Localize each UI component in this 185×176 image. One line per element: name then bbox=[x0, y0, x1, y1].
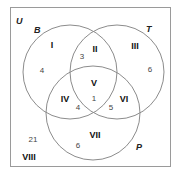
region-label-v: V bbox=[91, 79, 97, 88]
region-count-ii: 3 bbox=[80, 53, 84, 61]
venn-diagram: U B T P I 4 II 3 III 6 IV 4 V 1 VI 5 VII… bbox=[0, 0, 185, 176]
region-count-i: 4 bbox=[40, 67, 44, 75]
region-label-iii: III bbox=[131, 42, 139, 51]
set-label-t: T bbox=[146, 25, 152, 34]
region-count-v: 1 bbox=[92, 95, 96, 103]
universe-label: U bbox=[16, 17, 23, 26]
region-label-iv: IV bbox=[61, 95, 70, 104]
region-count-viii: 21 bbox=[29, 136, 38, 144]
region-count-iv: 4 bbox=[76, 104, 80, 112]
region-count-vii: 6 bbox=[76, 142, 80, 150]
set-label-b: B bbox=[34, 26, 41, 35]
region-label-vi: VI bbox=[120, 95, 129, 104]
region-count-iii: 6 bbox=[148, 66, 152, 74]
region-label-i: I bbox=[51, 41, 54, 50]
region-label-viii: VIII bbox=[22, 153, 36, 162]
region-label-vii: VII bbox=[89, 131, 100, 140]
set-label-p: P bbox=[136, 143, 142, 152]
region-count-vi: 5 bbox=[109, 104, 113, 112]
venn-circles bbox=[0, 0, 185, 176]
region-label-ii: II bbox=[92, 45, 97, 54]
